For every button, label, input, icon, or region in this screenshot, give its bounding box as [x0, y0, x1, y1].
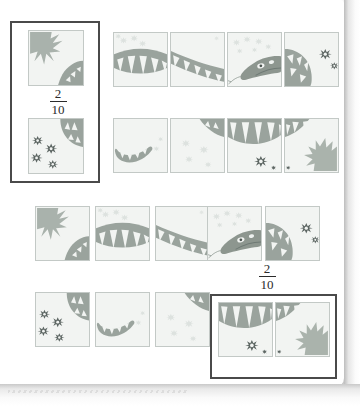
tile-r4-light-flowers[interactable]: [155, 292, 210, 347]
zigzag-diag-icon: [171, 33, 224, 86]
answer-tile-grass-tail[interactable]: [28, 30, 84, 86]
fraction-denominator: 10: [46, 102, 70, 116]
tail-tip-icon: [96, 293, 149, 346]
tile-r1-snake-head[interactable]: [227, 32, 282, 87]
answer-tile-arc-grass[interactable]: [275, 302, 330, 357]
tile-r4-darkflowers-body[interactable]: [35, 292, 90, 347]
fraction-numerator: 2: [255, 262, 279, 276]
tile-r2-tail-tip[interactable]: [113, 118, 168, 173]
tile-r3-coil-flowers[interactable]: [265, 206, 320, 261]
fraction-top-left: 2 10: [46, 87, 70, 116]
page-edge-right: [344, 0, 360, 392]
snake-head-icon: [208, 207, 261, 260]
darkflowers-body-icon: [36, 293, 89, 346]
worksheet-page: 2 10 2: [0, 0, 360, 406]
tile-r1-zigzag-diag[interactable]: [170, 32, 225, 87]
arc-grass-icon: [276, 303, 329, 356]
arc-darkflower-icon: [219, 303, 272, 356]
coil-flowers-icon: [266, 207, 319, 260]
snake-head-icon: [228, 33, 281, 86]
darkflowers-body-icon: [29, 119, 83, 173]
arc-grass-icon: [285, 119, 338, 172]
zigzag-band-icon: [114, 33, 167, 86]
grass-tail-icon: [29, 31, 83, 85]
fraction-numerator: 2: [46, 87, 70, 101]
tail-tip-icon: [114, 119, 167, 172]
answer-tile-darkflowers-body[interactable]: [28, 118, 84, 174]
tile-r3-zigzag-diag[interactable]: [155, 206, 210, 261]
tile-r1-coil-flowers[interactable]: [284, 32, 339, 87]
coil-flowers-icon: [285, 33, 338, 86]
zigzag-diag-icon: [156, 207, 209, 260]
light-flowers-icon: [171, 119, 224, 172]
fraction-bottom-right: 2 10: [255, 262, 279, 291]
tile-r3-zigzag-band[interactable]: [95, 206, 150, 261]
arc-darkflower-icon: [228, 119, 281, 172]
tile-r3-snake-head[interactable]: [207, 206, 262, 261]
zigzag-band-icon: [96, 207, 149, 260]
light-flowers-icon: [156, 293, 209, 346]
tile-r2-arc-grass[interactable]: [284, 118, 339, 173]
tile-r2-arc-darkflower[interactable]: [227, 118, 282, 173]
grass-tail-icon: [36, 207, 89, 260]
tile-r1-zigzag-band[interactable]: [113, 32, 168, 87]
tile-r4-tail-tip[interactable]: [95, 292, 150, 347]
page-edge-bottom: [0, 384, 360, 406]
answer-tile-arc-darkflower[interactable]: [218, 302, 273, 357]
tile-r3-grass-tail[interactable]: [35, 206, 90, 261]
tile-r2-light-flowers[interactable]: [170, 118, 225, 173]
fraction-denominator: 10: [255, 277, 279, 291]
